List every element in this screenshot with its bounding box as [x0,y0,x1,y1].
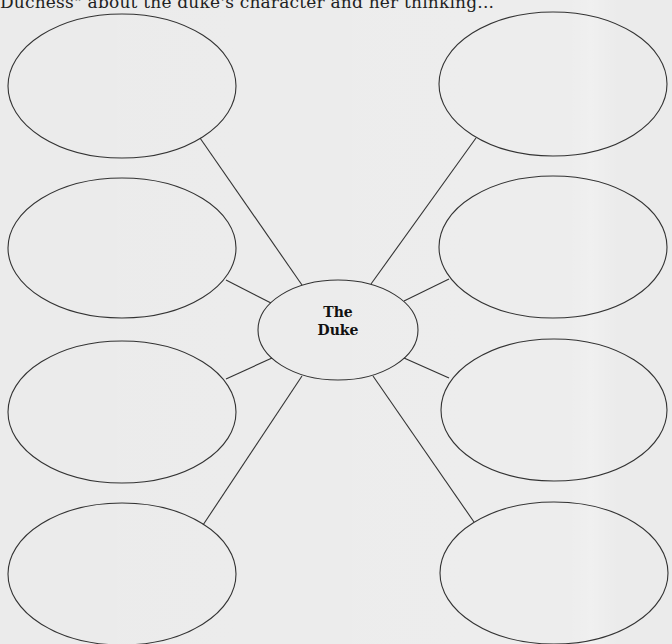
center-label-line2: Duke [258,321,418,339]
bubble-top-left [8,14,236,158]
bubble-mid-lower-left [8,341,236,483]
connector-line-top-right [371,138,476,284]
center-bubble-label: The Duke [258,303,418,339]
bubble-top-right [439,12,667,156]
bubble-mid-lower-right [441,339,667,481]
bubble-mid-upper-left [8,178,236,318]
connector-line-mid-upper-left [226,280,271,303]
connector-line-top-left [200,138,302,285]
connector-line-mid-upper-right [404,279,449,301]
connector-line-mid-lower-left [226,358,272,379]
center-label-line1: The [258,303,418,321]
bubble-bottom-left [8,503,236,644]
bubble-bottom-right [440,502,668,644]
connector-line-mid-lower-right [404,358,449,378]
bubble-mid-upper-right [439,176,667,318]
